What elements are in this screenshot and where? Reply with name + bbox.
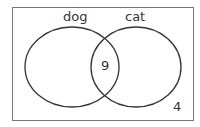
- cat-set-label: cat: [125, 10, 145, 23]
- venn-diagram: [0, 0, 200, 127]
- outside-value: 4: [173, 100, 181, 113]
- dog-set-label: dog: [63, 10, 87, 23]
- intersection-value: 9: [101, 59, 109, 72]
